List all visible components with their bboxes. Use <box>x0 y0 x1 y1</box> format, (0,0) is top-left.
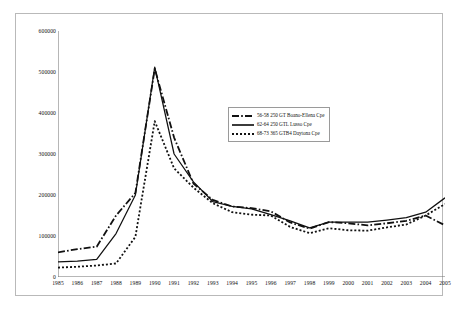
x-tick-label: 2001 <box>362 280 374 286</box>
legend-label: 68-73 365 GTB4 Daytona Cpe <box>257 129 320 138</box>
x-tick-label: 1996 <box>265 280 277 286</box>
x-tick-label: 1987 <box>91 280 103 286</box>
series-group <box>58 67 445 267</box>
x-tick-label: 1992 <box>188 280 200 286</box>
x-tick-label: 2000 <box>342 280 354 286</box>
legend-swatch-solid <box>232 121 254 129</box>
y-tick-label: 500000 <box>39 69 56 75</box>
x-tick-label: 2003 <box>401 280 413 286</box>
x-tick-label: 1993 <box>207 280 219 286</box>
x-tick-label: 1986 <box>72 280 84 286</box>
x-tick-label: 1997 <box>284 280 296 286</box>
x-tick-label: 1994 <box>226 280 238 286</box>
x-tick-label: 2004 <box>420 280 432 286</box>
chart-legend: 56-58 250 GT Boano-Ellena Cpe62-64 250 G… <box>228 107 330 142</box>
legend-swatch-dash-dot <box>232 112 254 120</box>
series-canvas <box>58 31 445 277</box>
legend-item: 62-64 250 GTL Lusso Cpe <box>232 120 325 129</box>
legend-label: 62-64 250 GTL Lusso Cpe <box>257 120 312 129</box>
y-tick-label: 600000 <box>39 28 56 34</box>
x-tick-label: 2002 <box>381 280 393 286</box>
plot-area <box>58 31 445 277</box>
legend-item: 68-73 365 GTB4 Daytona Cpe <box>232 129 325 138</box>
legend-swatch-dotted <box>232 130 254 138</box>
x-tick-label: 1988 <box>110 280 122 286</box>
x-tick-label: 1985 <box>52 280 64 286</box>
y-tick-label: 300000 <box>39 151 56 157</box>
legend-item: 56-58 250 GT Boano-Ellena Cpe <box>232 111 325 120</box>
y-tick-label: 200000 <box>39 192 56 198</box>
x-tick-label: 1998 <box>304 280 316 286</box>
y-axis-tick-labels: 0100000200000300000400000500000600000 <box>15 31 56 277</box>
x-tick-label: 2005 <box>439 280 451 286</box>
series-path-1 <box>58 69 445 253</box>
chart-figure: 0100000200000300000400000500000600000 19… <box>0 0 458 309</box>
series-path-3 <box>58 121 445 267</box>
series-path-2 <box>58 67 445 262</box>
legend-label: 56-58 250 GT Boano-Ellena Cpe <box>257 111 325 120</box>
x-tick-label: 1991 <box>168 280 180 286</box>
y-tick-label: 400000 <box>39 110 56 116</box>
x-tick-label: 1999 <box>323 280 335 286</box>
axes-group <box>58 31 445 277</box>
x-axis-tick-labels: 1985198619871988198919901991199219931994… <box>58 280 445 296</box>
x-tick-label: 1995 <box>246 280 258 286</box>
x-tick-label: 1990 <box>149 280 161 286</box>
y-tick-label: 100000 <box>39 233 56 239</box>
x-tick-label: 1989 <box>130 280 142 286</box>
